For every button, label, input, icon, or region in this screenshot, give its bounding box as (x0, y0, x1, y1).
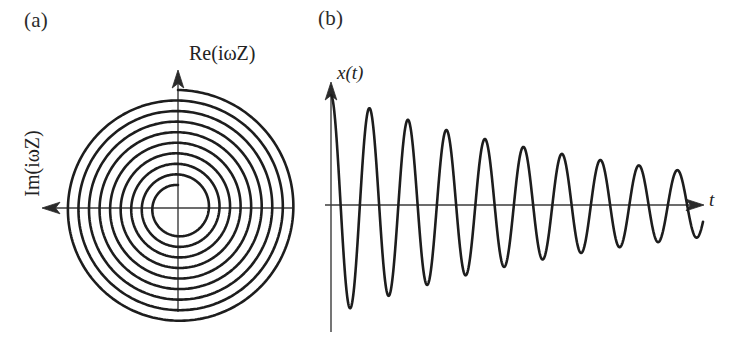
figure-canvas: (a) Re(iωZ) Im(iωZ) (b) x(t) t (0, 0, 738, 339)
panel-b-damped-oscillation-curve (331, 95, 703, 308)
panel-b-plot (0, 0, 738, 339)
